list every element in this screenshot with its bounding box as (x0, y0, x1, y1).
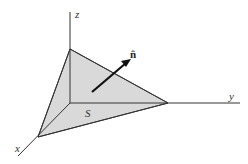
z-axis-label: z (74, 8, 80, 20)
surface-label: S (85, 107, 91, 119)
surface-s-face (38, 49, 168, 137)
diagram-svg: z y x S n̂ (0, 0, 248, 164)
y-axis-label: y (228, 90, 234, 102)
normal-vector-label: n̂ (130, 48, 136, 60)
diagram-canvas: z y x S n̂ (0, 0, 248, 164)
x-axis-label: x (14, 142, 20, 154)
